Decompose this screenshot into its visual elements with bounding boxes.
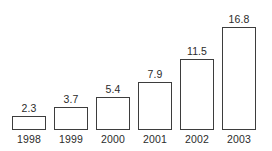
bar-chart: 2.3 1998 3.7 1999 5.4 2000 7.9 2001 11.5… <box>0 0 272 151</box>
bar-group-1[interactable]: 3.7 1999 <box>54 107 88 130</box>
bar-group-3[interactable]: 7.9 2001 <box>138 82 172 130</box>
bar-group-2[interactable]: 5.4 2000 <box>96 97 130 130</box>
plot-area: 2.3 1998 3.7 1999 5.4 2000 7.9 2001 11.5… <box>0 0 272 151</box>
bar-value-label: 16.8 <box>214 14 264 25</box>
bar-rect[interactable] <box>180 59 214 130</box>
bar-group-5[interactable]: 16.8 2003 <box>222 27 256 130</box>
bar-rect[interactable] <box>96 97 130 130</box>
bar-group-4[interactable]: 11.5 2002 <box>180 59 214 130</box>
bar-rect[interactable] <box>54 107 88 130</box>
bar-rect[interactable] <box>138 82 172 130</box>
bar-value-label: 5.4 <box>88 84 138 95</box>
bar-value-label: 11.5 <box>172 46 222 57</box>
bar-category-label: 2003 <box>213 130 265 145</box>
bar-group-0[interactable]: 2.3 1998 <box>12 116 46 130</box>
bar-value-label: 3.7 <box>46 94 96 105</box>
bar-value-label: 7.9 <box>130 69 180 80</box>
bar-rect[interactable] <box>222 27 256 130</box>
bar-rect[interactable] <box>12 116 46 130</box>
